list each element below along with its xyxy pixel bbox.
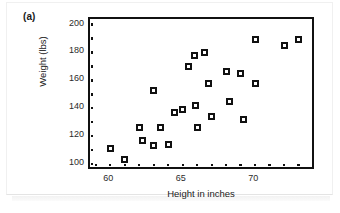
- x-axis-tick: [268, 164, 270, 166]
- y-axis-tick-label: 100: [69, 157, 84, 167]
- y-axis-tick: [91, 93, 93, 95]
- data-point-marker: [136, 124, 143, 131]
- y-axis-tick: [91, 23, 93, 25]
- y-axis-tick: [91, 37, 93, 39]
- data-point-marker: [185, 63, 192, 70]
- x-axis-tick: [283, 164, 285, 166]
- y-axis-tick: [91, 163, 93, 165]
- x-axis-tick: [297, 164, 299, 166]
- data-point-marker: [179, 106, 186, 113]
- data-point-marker: [150, 87, 157, 94]
- y-axis-tick: [91, 107, 93, 109]
- x-axis-tick-label: 65: [176, 173, 186, 183]
- data-point-marker: [165, 141, 172, 148]
- data-point-marker: [201, 49, 208, 56]
- x-axis-tick: [254, 164, 256, 166]
- y-axis-tick-label: 180: [69, 45, 84, 55]
- data-point-marker: [223, 68, 230, 75]
- data-point-marker: [205, 80, 212, 87]
- y-axis-title: Weight (lbs): [37, 17, 48, 107]
- y-axis-tick: [91, 65, 93, 67]
- data-point-marker: [139, 137, 146, 144]
- x-axis-tick: [153, 164, 155, 166]
- data-point-marker: [150, 142, 157, 149]
- data-point-marker: [208, 113, 215, 120]
- plot-frame: [88, 17, 314, 169]
- x-axis-tick: [95, 164, 97, 166]
- x-axis-tick: [182, 164, 184, 166]
- data-point-marker: [107, 145, 114, 152]
- y-axis-tick: [91, 51, 93, 53]
- x-axis-tick-label: 60: [103, 173, 113, 183]
- data-point-marker: [157, 124, 164, 131]
- x-axis-tick: [138, 164, 140, 166]
- x-axis-tick: [196, 164, 198, 166]
- data-point-marker: [240, 116, 247, 123]
- data-point-marker: [226, 98, 233, 105]
- y-axis-tick: [91, 135, 93, 137]
- y-axis-tick-label: 120: [69, 129, 84, 139]
- data-point-marker: [121, 156, 128, 163]
- x-axis-tick: [167, 164, 169, 166]
- y-axis-tick-label: 160: [69, 73, 84, 83]
- x-axis-tick: [124, 164, 126, 166]
- y-axis-tick-label: 140: [69, 101, 84, 111]
- data-point-marker: [194, 124, 201, 131]
- x-axis-tick-labels: 606570: [88, 173, 314, 187]
- x-axis-title: Height in inches: [88, 188, 314, 199]
- data-point-marker: [252, 80, 259, 87]
- data-point-marker: [295, 36, 302, 43]
- data-point-marker: [192, 102, 199, 109]
- x-axis-tick: [109, 164, 111, 166]
- x-axis-tick: [225, 164, 227, 166]
- data-point-marker: [252, 36, 259, 43]
- x-axis-tick: [239, 164, 241, 166]
- data-point-marker: [191, 52, 198, 59]
- data-point-marker: [281, 42, 288, 49]
- data-point-marker: [237, 70, 244, 77]
- data-point-marker: [171, 109, 178, 116]
- figure-root: (a) Weight (lbs) 100120140160180200 6065…: [0, 0, 340, 213]
- x-axis-tick-label: 70: [248, 173, 258, 183]
- y-axis-tick: [91, 79, 93, 81]
- y-axis-tick: [91, 121, 93, 123]
- y-axis-tick-labels: 100120140160180200: [55, 17, 84, 169]
- panel-label: (a): [23, 11, 36, 22]
- x-axis-tick: [211, 164, 213, 166]
- y-axis-tick: [91, 149, 93, 151]
- scatter-plot-area: [90, 19, 312, 167]
- y-axis-tick-label: 200: [69, 18, 84, 28]
